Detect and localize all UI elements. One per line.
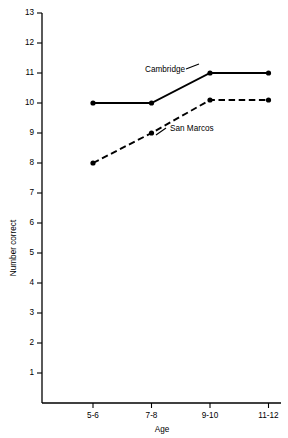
chart-figure: 12345678910111213 5-67-89-1011-12 Cambri… (0, 0, 288, 438)
data-point-cambridge-5-6 (90, 100, 95, 105)
series-line-cambridge (93, 73, 269, 103)
y-tick-label: 7 (29, 188, 34, 197)
y-tick-label: 1 (29, 368, 34, 377)
x-axis-tick-labels: 5-67-89-1011-12 (87, 411, 279, 420)
data-point-san-marcos-11-12 (266, 97, 271, 102)
y-tick-label: 13 (25, 8, 35, 17)
series-layer (90, 70, 271, 165)
y-tick-label: 2 (29, 338, 34, 347)
x-axis-ticks (93, 403, 269, 408)
y-axis-title: Number correct (9, 219, 18, 276)
y-axis-ticks (37, 13, 42, 373)
data-point-san-marcos-9-10 (207, 97, 212, 102)
annotation-layer: CambridgeSan Marcos (145, 64, 214, 135)
line-chart: 12345678910111213 5-67-89-1011-12 Cambri… (0, 0, 288, 438)
x-tick-label: 5-6 (87, 411, 99, 420)
x-tick-label: 9-10 (202, 411, 219, 420)
series-label-san-marcos: San Marcos (170, 124, 214, 133)
data-point-cambridge-7-8 (149, 100, 154, 105)
x-tick-label: 11-12 (258, 411, 279, 420)
data-point-san-marcos-5-6 (90, 160, 95, 165)
y-tick-label: 9 (29, 128, 34, 137)
y-tick-label: 4 (29, 278, 34, 287)
y-tick-label: 5 (29, 248, 34, 257)
y-tick-label: 6 (29, 218, 34, 227)
x-axis-title: Age (155, 425, 170, 434)
cambridge-leader-line (186, 64, 199, 69)
data-point-cambridge-9-10 (207, 70, 212, 75)
y-tick-label: 10 (25, 98, 35, 107)
y-tick-label: 3 (29, 308, 34, 317)
y-tick-label: 11 (26, 68, 35, 77)
data-point-cambridge-11-12 (266, 70, 271, 75)
y-axis-tick-labels: 12345678910111213 (25, 8, 35, 377)
y-tick-label: 12 (25, 38, 35, 47)
series-label-cambridge: Cambridge (145, 65, 185, 74)
data-point-san-marcos-7-8 (149, 130, 154, 135)
x-tick-label: 7-8 (146, 411, 158, 420)
y-tick-label: 8 (29, 158, 34, 167)
